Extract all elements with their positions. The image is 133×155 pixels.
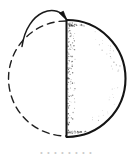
solid-half-disc-arc (67, 20, 126, 137)
rotation-arrow-shaft (22, 10, 67, 46)
figure-caption: • • • • • • • • (0, 148, 133, 155)
rotation-arrow-head (59, 11, 67, 20)
line-drawing-canvas: Sphere with rotating half-disc and curve… (0, 0, 133, 155)
figure-root: Sphere with rotating half-disc and curve… (0, 0, 133, 155)
stipple-shading-group (67, 22, 121, 134)
dashed-ghost-circle-arc (9, 21, 66, 136)
